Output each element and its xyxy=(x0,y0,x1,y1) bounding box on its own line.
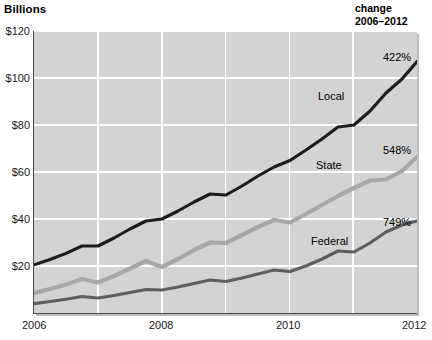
y-axis-tick-20: $20 xyxy=(0,261,30,272)
y-axis-tick-60: $60 xyxy=(0,167,30,178)
change-value-state: 548% xyxy=(383,144,411,156)
series-label-state: State xyxy=(316,159,342,171)
y-axis-tick-120: $120 xyxy=(0,26,30,37)
series-label-local: Local xyxy=(318,90,344,102)
x-axis-tick-2012: 2012 xyxy=(402,320,426,331)
x-axis-tick-2008: 2008 xyxy=(149,320,173,331)
change-value-federal: 749% xyxy=(383,216,411,228)
y-axis-title: Billions xyxy=(4,3,46,15)
change-header-line-2: 2006–2012 xyxy=(355,15,408,28)
y-axis-tick-100: $100 xyxy=(0,73,30,84)
y-axis-tick-40: $40 xyxy=(0,214,30,225)
change-header-line-1: change xyxy=(355,2,408,15)
plot-svg xyxy=(34,31,417,313)
x-axis-tick-2006: 2006 xyxy=(22,320,46,331)
series-label-federal: Federal xyxy=(311,235,348,247)
change-value-local: 422% xyxy=(383,51,411,63)
plot-area xyxy=(33,31,417,314)
line-chart: Billions change 2006–2012 $120 $100 $80 … xyxy=(0,0,432,340)
x-axis-tick-2010: 2010 xyxy=(276,320,300,331)
y-axis-tick-80: $80 xyxy=(0,120,30,131)
change-column-header: change 2006–2012 xyxy=(355,2,408,27)
